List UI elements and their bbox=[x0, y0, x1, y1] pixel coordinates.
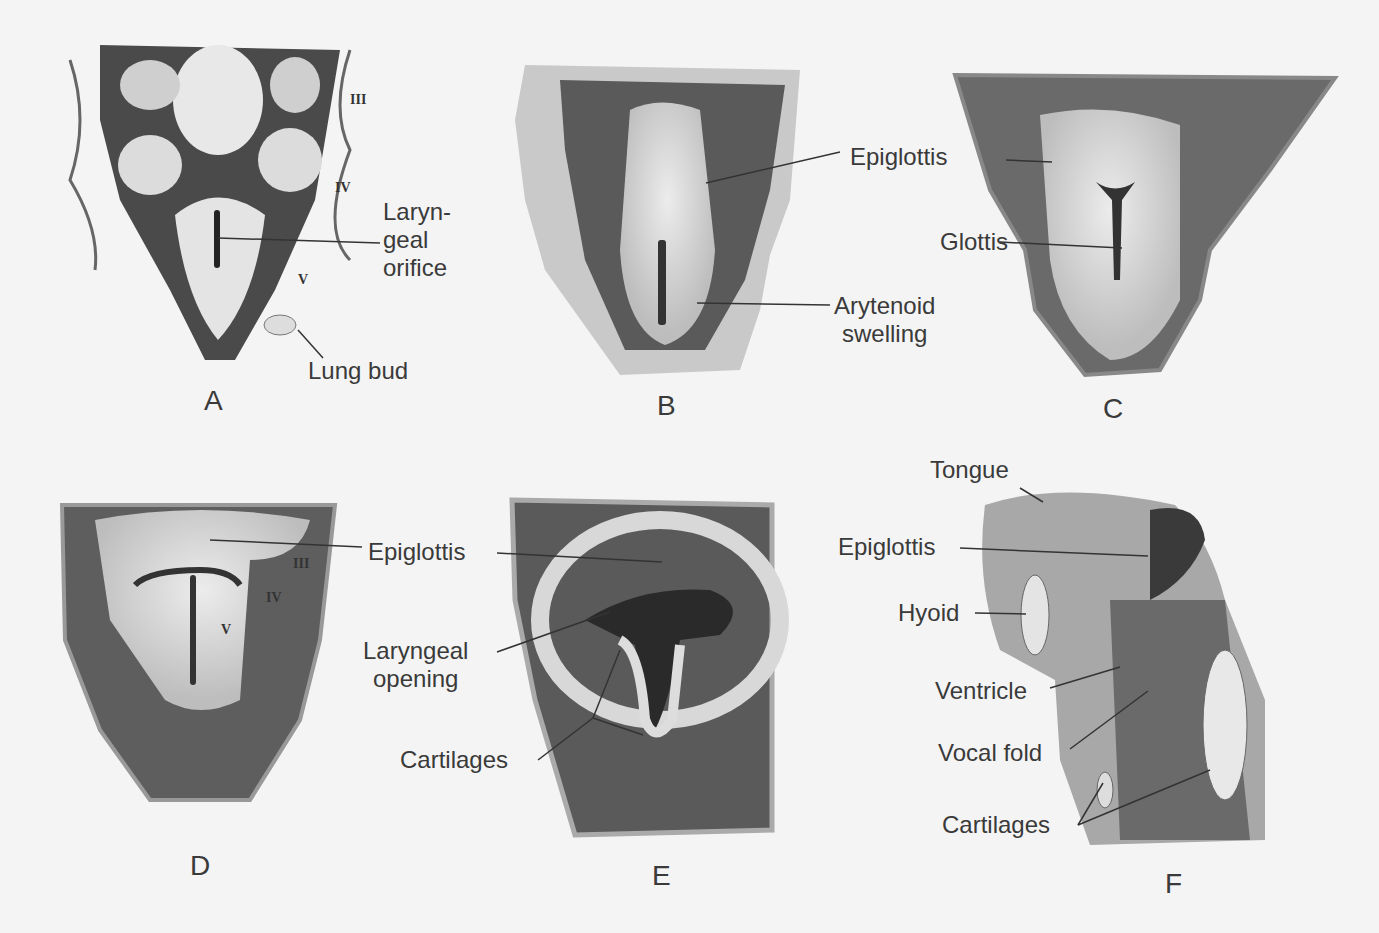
label-lung-bud: Lung bud bbox=[308, 357, 408, 385]
panel-b-illustration bbox=[515, 65, 840, 375]
panel-letter-d: D bbox=[190, 850, 210, 882]
label-hyoid: Hyoid bbox=[898, 599, 959, 627]
label-epiglottis-f: Epiglottis bbox=[838, 533, 935, 561]
label-vocal-fold: Vocal fold bbox=[938, 739, 1042, 767]
arch-label-iii-d: III bbox=[293, 556, 309, 572]
panel-a-illustration bbox=[70, 45, 380, 360]
label-ventricle: Ventricle bbox=[935, 677, 1027, 705]
arch-label-iv-d: IV bbox=[266, 590, 282, 606]
arch-label-iii: III bbox=[350, 92, 366, 108]
label-epiglottis-d: Epiglottis bbox=[368, 538, 465, 566]
panel-e-illustration bbox=[497, 500, 780, 835]
label-tongue: Tongue bbox=[930, 456, 1009, 484]
label-glottis: Glottis bbox=[940, 228, 1008, 256]
label-epiglottis-b: Epiglottis bbox=[850, 143, 947, 171]
arch-label-v-d: V bbox=[221, 622, 231, 638]
panel-f-illustration bbox=[960, 488, 1265, 845]
panel-letter-e: E bbox=[652, 860, 671, 892]
label-laryngeal-opening: Laryngeal opening bbox=[363, 637, 468, 693]
panel-letter-f: F bbox=[1165, 868, 1182, 900]
panel-letter-b: B bbox=[657, 390, 676, 422]
label-cartilages-f: Cartilages bbox=[942, 811, 1050, 839]
arch-label-iv: IV bbox=[335, 180, 351, 196]
panel-letter-c: C bbox=[1103, 393, 1123, 425]
panel-c-illustration bbox=[955, 75, 1335, 375]
arch-label-v: V bbox=[298, 272, 308, 288]
label-arytenoid-swelling: Arytenoid swelling bbox=[834, 292, 935, 348]
panel-d-illustration bbox=[62, 505, 362, 800]
label-cartilages-e: Cartilages bbox=[400, 746, 508, 774]
label-laryngeal-orifice: Laryn- geal orifice bbox=[383, 198, 451, 282]
panel-letter-a: A bbox=[204, 385, 223, 417]
diagram-artwork bbox=[0, 0, 1379, 933]
